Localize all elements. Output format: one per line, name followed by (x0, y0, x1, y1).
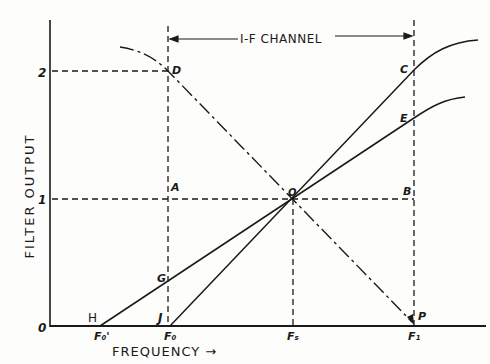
point-p-label: P (418, 310, 426, 323)
point-g-label: G (157, 272, 166, 285)
point-j-label: J (156, 311, 163, 325)
point-h-label: H (88, 311, 97, 325)
point-b-label: B (403, 185, 411, 198)
arrowhead-right (404, 33, 412, 39)
arrowhead-p (407, 314, 414, 325)
f0-label: F₀ (164, 330, 177, 343)
point-e-label: E (400, 112, 408, 125)
f0-prime-label: F₀' (94, 330, 110, 343)
steep-response-curve (170, 40, 478, 326)
y-tick-2: 2 (38, 66, 46, 80)
f1-label: F₁ (408, 330, 421, 343)
y-tick-1: 1 (38, 193, 46, 207)
point-c-label: C (400, 63, 408, 76)
x-axis-label: FREQUENCY → (112, 344, 217, 359)
point-d-label: D (172, 64, 181, 77)
point-o-label: O (288, 187, 297, 198)
discriminator-diagram: 2 1 0 FILTER OUTPUT FREQUENCY → I-F CHAN… (0, 0, 490, 364)
channel-label: I-F CHANNEL (240, 32, 322, 46)
y-axis-label: FILTER OUTPUT (22, 133, 37, 258)
fs-label: Fₛ (287, 330, 299, 343)
arrowhead-left (170, 36, 178, 42)
shallow-response-curve (100, 97, 465, 326)
point-a-label: A (170, 181, 180, 194)
y-tick-0: 0 (38, 321, 46, 335)
